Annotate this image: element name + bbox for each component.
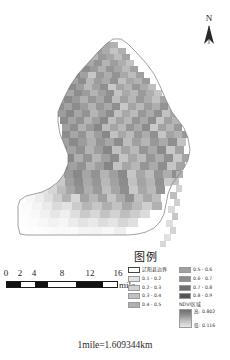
legend-label: 0.4 - 0.5 [142,302,161,308]
scale-segment [48,282,76,287]
scale-segment [35,282,49,287]
legend-swatch [128,293,140,299]
legend-swatch [179,276,191,282]
scale-tick-1: 2 [18,268,23,278]
scale-tick-2: 4 [32,268,37,278]
scale-tick-4: 12 [86,268,95,278]
legend-item[interactable]: 0.3 - 0.4 [128,292,177,300]
scale-segment [7,282,21,287]
legend-label: 0.8 - 0.9 [193,293,212,299]
legend-item[interactable]: 0.4 - 0.5 [128,301,177,309]
ndvi-raster-map[interactable] [0,8,230,258]
legend-swatch [179,285,191,291]
legend-swatch-boundary [128,267,140,273]
legend-item[interactable]: 0.5 - 0.6 [179,266,228,274]
ndvi-high-label: 高: 0.802 [194,309,215,314]
scale-segment [76,282,104,287]
scale-bar: 0 2 4 8 12 16 mile [6,268,128,298]
ndvi-legend-title: NDVI区域 [179,302,228,308]
legend-label: 0.3 - 0.4 [142,293,161,299]
legend-label: 0.6 - 0.7 [193,276,212,282]
legend-label: 0.2 - 0.3 [142,285,161,291]
scale-tick-0: 0 [4,268,9,278]
legend-title: 图例 [134,252,228,264]
unit-conversion-note: 1mile=1.609344km [0,340,230,351]
legend-column-right: 0.5 - 0.6 0.6 - 0.7 0.7 - 0.8 0.8 - 0.9 … [179,266,228,328]
ndvi-color-ramp [179,309,192,328]
legend-item[interactable]: 0.6 - 0.7 [179,275,228,283]
scale-bar-body [6,281,118,288]
legend-column-left: 辽阳县边界 0.1 - 0.2 0.2 - 0.3 0.3 - 0.4 0.4 … [128,266,177,328]
ndvi-low-label: 低: 0.116 [194,323,215,328]
ndvi-legend: NDVI区域 高: 0.802 低: 0.116 [179,302,228,328]
legend-label: 0.7 - 0.8 [193,285,212,291]
scale-tick-5: 16 [114,268,123,278]
legend-swatch [128,285,140,291]
legend-item[interactable]: 辽阳县边界 [128,266,177,274]
scale-segment [21,282,35,287]
map-page: N [0,0,230,360]
legend-label: 0.1 - 0.2 [142,276,161,282]
legend-item[interactable]: 0.2 - 0.3 [128,284,177,292]
legend-label: 辽阳县边界 [142,267,167,273]
scale-segment [103,282,117,287]
legend-swatch [179,267,191,273]
scale-bar-ticks: 0 2 4 8 12 16 [6,268,128,280]
legend-label: 0.5 - 0.6 [193,267,212,273]
legend-item[interactable]: 0.7 - 0.8 [179,284,228,292]
legend-swatch [179,293,191,299]
legend-item[interactable]: 0.1 - 0.2 [128,275,177,283]
legend-item[interactable]: 0.8 - 0.9 [179,292,228,300]
scale-tick-3: 8 [60,268,65,278]
raster-cells [0,8,230,258]
legend-panel: 图例 辽阳县边界 0.1 - 0.2 0.2 - 0.3 0.3 [128,252,228,338]
map-canvas[interactable] [0,8,230,258]
legend-swatch [128,276,140,282]
legend-swatch [128,302,140,308]
